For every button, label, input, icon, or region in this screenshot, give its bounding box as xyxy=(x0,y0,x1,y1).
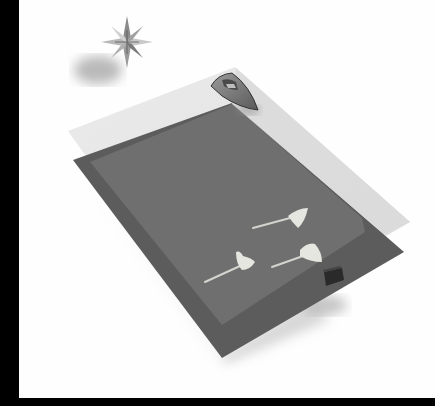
render-viewport xyxy=(19,0,435,398)
star-shadow xyxy=(74,56,122,84)
